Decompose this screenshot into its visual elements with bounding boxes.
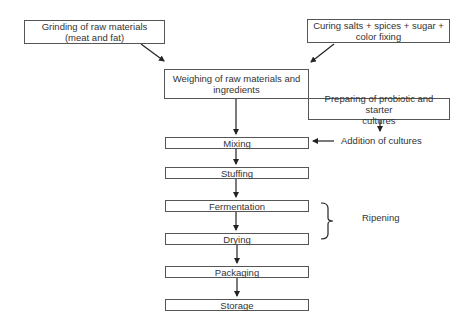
weighing-label-line1: Weighing of raw materials and xyxy=(173,73,301,84)
grinding-label-line2: (meat and fat) xyxy=(65,32,124,43)
step-label: Storage xyxy=(220,300,253,311)
preparing-label-line1: Preparing of probiotic and starter xyxy=(313,93,445,115)
step-label: Fermentation xyxy=(209,201,265,212)
step-label: Packaging xyxy=(215,267,259,278)
addition-of-cultures-label: Addition of cultures xyxy=(341,135,422,146)
preparing-cultures-box: Preparing of probiotic and starter cultu… xyxy=(308,98,450,120)
arrow-curing-to-weighing xyxy=(311,44,334,62)
curing-box: Curing salts + spices + sugar + color fi… xyxy=(307,19,450,43)
step-label: Stuffing xyxy=(221,168,253,179)
preparing-label-line2: cultures xyxy=(362,115,395,126)
step-label: Mixing xyxy=(223,138,250,149)
ripening-brace xyxy=(321,203,333,239)
step-mixing: Mixing xyxy=(165,137,309,149)
step-stuffing: Stuffing xyxy=(165,167,309,179)
weighing-box: Weighing of raw materials and ingredient… xyxy=(164,69,309,99)
curing-label-line2: color fixing xyxy=(356,31,401,42)
curing-label-line1: Curing salts + spices + sugar + xyxy=(313,20,444,31)
step-label: Drying xyxy=(223,234,250,245)
weighing-label-line2: ingredients xyxy=(213,84,259,95)
arrow-grinding-to-weighing xyxy=(141,44,164,61)
step-storage: Storage xyxy=(165,299,309,311)
ripening-label: Ripening xyxy=(362,212,400,223)
step-fermentation: Fermentation xyxy=(165,200,309,212)
step-drying: Drying xyxy=(165,233,309,245)
grinding-box: Grinding of raw materials (meat and fat) xyxy=(24,20,165,44)
grinding-label-line1: Grinding of raw materials xyxy=(42,21,148,32)
step-packaging: Packaging xyxy=(165,266,309,278)
